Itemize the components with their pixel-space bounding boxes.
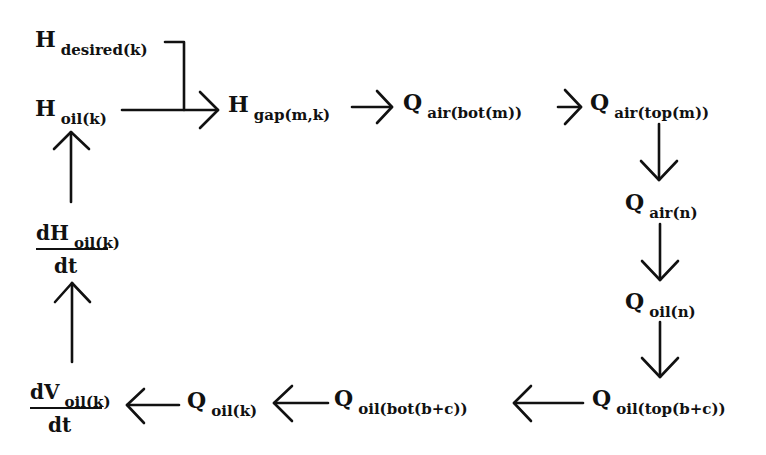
flow-diagram: Hdesired(k) Hoil(k) Hgap(m,k) Qair(bot(m… <box>0 0 766 455</box>
fraction-denominator: dt <box>54 256 77 276</box>
fraction-numerator: dHoil(k) <box>36 223 132 243</box>
node-q-air-top: Qair(top(m)) <box>590 91 709 113</box>
node-h-desired: Hdesired(k) <box>35 28 148 50</box>
arrow-left-icon <box>514 386 583 421</box>
arrow-left-icon <box>127 389 179 423</box>
node-q-oil-top: Qoil(top(b+c)) <box>592 387 726 409</box>
arrow-right-icon <box>122 92 218 128</box>
arrow-right-icon <box>558 90 581 124</box>
node-h-oil: Hoil(k) <box>35 97 107 119</box>
fraction-denominator: dt <box>48 415 71 435</box>
node-q-oil-k: Qoil(k) <box>187 389 257 411</box>
arrow-down-icon <box>642 322 678 377</box>
node-h-gap: Hgap(m,k) <box>228 93 330 115</box>
arrow-down-icon <box>642 224 678 280</box>
arrow-down-icon <box>641 124 677 180</box>
fraction-bar <box>30 407 102 409</box>
node-dv-dt-fraction: dVoil(k) dt <box>30 382 126 442</box>
node-q-air-n: Qair(n) <box>625 191 698 213</box>
node-q-oil-n: Qoil(n) <box>625 290 696 312</box>
elbow-connector-icon <box>165 42 184 110</box>
node-q-oil-bot: Qoil(bot(b+c)) <box>334 387 468 409</box>
arrow-up-icon <box>55 283 90 362</box>
node-q-air-bot: Qair(bot(m)) <box>403 91 522 113</box>
node-dh-dt-fraction: dHoil(k) dt <box>36 223 132 283</box>
fraction-bar <box>36 248 108 250</box>
arrow-up-icon <box>54 132 89 202</box>
fraction-numerator: dVoil(k) <box>30 382 126 402</box>
arrow-right-icon <box>352 91 392 123</box>
arrow-left-icon <box>274 386 328 421</box>
